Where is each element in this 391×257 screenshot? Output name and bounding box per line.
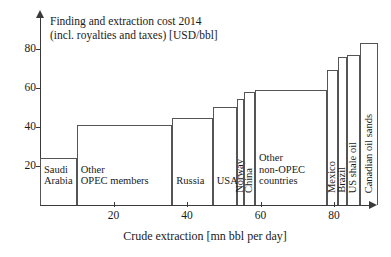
chart-root: Finding and extraction cost 2014 (incl. … — [0, 0, 391, 257]
y-tick-label: 40 — [0, 121, 36, 133]
x-axis-line — [40, 205, 370, 206]
bar-label: US shale oil — [347, 142, 359, 193]
y-tick-label: 80 — [0, 43, 36, 55]
bar-label: Canadian oil sands — [363, 114, 375, 193]
y-tick-mark — [36, 49, 41, 50]
bar-label: Other OPEC members — [81, 164, 171, 187]
bar-label: USA — [217, 175, 235, 187]
y-tick-mark — [36, 88, 41, 89]
bar-label: Saudi Arabia — [44, 164, 75, 187]
y-tick-label: 20 — [0, 160, 36, 172]
bar — [172, 118, 212, 205]
y-tick-label-text: 40 — [6, 121, 36, 133]
x-tick-label: 40 — [172, 209, 202, 222]
y-axis-arrow-icon — [36, 10, 44, 18]
chart-title: Finding and extraction cost 2014 (incl. … — [50, 14, 218, 42]
x-tick-label: 80 — [319, 209, 349, 222]
x-tick-label: 20 — [99, 209, 129, 222]
x-axis-title: Crude extraction [mn bbl per day] — [40, 229, 370, 243]
y-tick-label-text: 80 — [6, 43, 36, 55]
y-tick-label: 60 — [0, 82, 36, 94]
bar — [213, 107, 237, 205]
bar-label: China — [243, 168, 255, 193]
y-tick-mark — [36, 127, 41, 128]
bar-label: Other non-OPEC countries — [259, 152, 325, 187]
y-tick-label-text: 60 — [6, 82, 36, 94]
bar-label: Russia — [176, 175, 210, 187]
y-tick-label-text: 20 — [6, 160, 36, 172]
bar — [255, 90, 327, 205]
x-tick-label: 60 — [246, 209, 276, 222]
